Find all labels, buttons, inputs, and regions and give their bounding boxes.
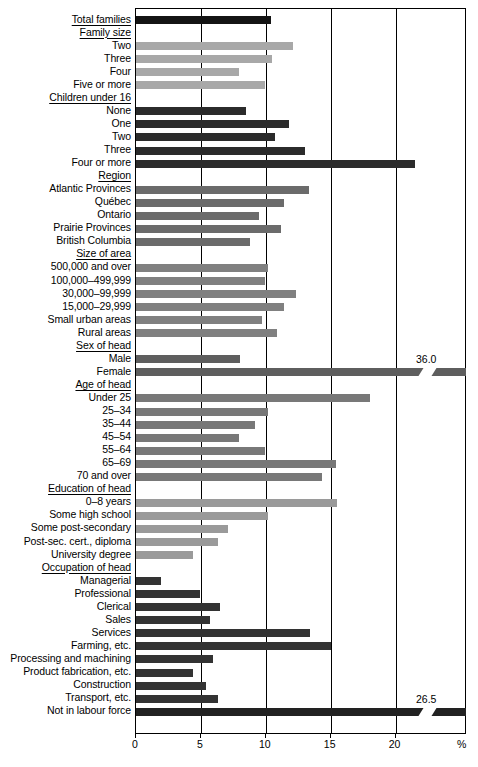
bar — [136, 120, 289, 128]
category-label: Some high school — [49, 509, 131, 520]
category-label: Construction — [73, 679, 131, 690]
bar — [136, 107, 246, 115]
x-axis: 05101520% — [135, 734, 466, 756]
bar-value-label: 36.0 — [416, 354, 436, 365]
section-heading: Family size — [80, 27, 131, 38]
bar — [136, 590, 200, 598]
category-label: One — [111, 118, 131, 129]
category-label: None — [106, 105, 131, 116]
bar — [136, 434, 239, 442]
category-label: 35–44 — [102, 418, 131, 429]
category-label: Total families — [72, 14, 131, 25]
bar — [136, 682, 206, 690]
bar — [136, 642, 331, 650]
category-label: Two — [112, 131, 131, 142]
bar — [136, 460, 336, 468]
bar — [136, 147, 305, 155]
category-label: Farming, etc. — [71, 640, 131, 651]
category-label: Post-sec. cert., diploma — [24, 536, 131, 547]
category-label: Not in labour force — [47, 705, 131, 716]
category-label: Services — [92, 627, 131, 638]
category-label: Small urban areas — [47, 314, 131, 325]
category-label: Professional — [74, 588, 131, 599]
category-label: Male — [109, 353, 131, 364]
bar — [136, 290, 296, 298]
category-label: 500,000 and over — [51, 261, 131, 272]
bar — [136, 394, 370, 402]
section-heading: Education of head — [48, 483, 131, 494]
category-label: Rural areas — [78, 327, 131, 338]
bar — [136, 473, 322, 481]
category-label: 70 and over — [77, 470, 131, 481]
category-label: Sales — [105, 614, 131, 625]
category-label: Four — [110, 66, 131, 77]
bar — [136, 616, 210, 624]
bar — [136, 577, 161, 585]
bar — [136, 525, 228, 533]
bar-value-label: 26.5 — [416, 694, 436, 705]
category-label: Processing and machining — [10, 653, 131, 664]
bar — [136, 68, 239, 76]
bar — [136, 55, 272, 63]
bar — [136, 133, 275, 141]
bar — [136, 512, 268, 520]
section-heading: Occupation of head — [42, 562, 131, 573]
bar — [136, 368, 466, 376]
bar — [136, 238, 250, 246]
bar — [136, 408, 268, 416]
category-label: 30,000–99,999 — [62, 288, 131, 299]
bar — [136, 264, 268, 272]
section-heading: Sex of head — [76, 340, 131, 351]
x-tick-label: 10 — [259, 739, 271, 750]
category-label: Three — [104, 144, 131, 155]
bar — [136, 629, 310, 637]
x-tick-label: 0 — [132, 739, 138, 750]
bar — [136, 708, 466, 716]
bar — [136, 355, 240, 363]
category-label: British Columbia — [56, 235, 131, 246]
bar — [136, 42, 293, 50]
bar — [136, 225, 281, 233]
category-label: Three — [104, 53, 131, 64]
bar — [136, 329, 277, 337]
category-label: 25–34 — [102, 405, 131, 416]
bar — [136, 277, 265, 285]
category-label: 65–69 — [102, 457, 131, 468]
bar — [136, 199, 284, 207]
section-heading: Region — [98, 170, 131, 181]
category-label: Four or more — [72, 157, 131, 168]
category-label: 55–64 — [102, 444, 131, 455]
bar — [136, 303, 284, 311]
bar — [136, 695, 218, 703]
category-label: Product fabrication, etc. — [23, 666, 131, 677]
bar — [136, 538, 218, 546]
section-heading: Children under 16 — [49, 92, 131, 103]
x-tick-label: 20 — [389, 739, 401, 750]
category-label: Prairie Provinces — [53, 222, 131, 233]
section-heading: Size of area — [76, 248, 131, 259]
category-label: Female — [97, 366, 131, 377]
axis-break-marker — [419, 708, 437, 716]
category-label: Two — [112, 40, 131, 51]
x-tick-label: 15 — [324, 739, 336, 750]
category-label: Five or more — [73, 79, 131, 90]
category-label: Clerical — [97, 601, 131, 612]
bar — [136, 447, 265, 455]
category-label: 15,000–29,999 — [62, 301, 131, 312]
category-label: 0–8 years — [86, 496, 131, 507]
bar — [136, 160, 415, 168]
category-label: Under 25 — [89, 392, 131, 403]
bar — [136, 316, 262, 324]
category-label: Transport, etc. — [65, 692, 131, 703]
category-label: University degree — [51, 549, 131, 560]
category-label: 100,000–499,999 — [51, 275, 131, 286]
bar — [136, 499, 337, 507]
category-label: 45–54 — [102, 431, 131, 442]
bar — [136, 655, 213, 663]
category-label: Managerial — [80, 575, 131, 586]
bar — [136, 603, 220, 611]
bar — [136, 421, 255, 429]
bar — [136, 669, 193, 677]
bar-chart: Total familiesFamily sizeTwoThreeFourFiv… — [0, 0, 478, 767]
bar — [136, 212, 259, 220]
